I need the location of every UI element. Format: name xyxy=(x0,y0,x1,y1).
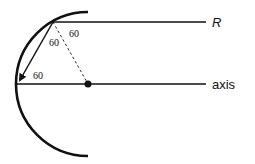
axis-label: axis xyxy=(212,77,236,92)
mirror-diagram: R axis 60 60 60 xyxy=(0,0,255,164)
ray-label: R xyxy=(212,15,221,30)
center-of-curvature-dot xyxy=(85,81,92,88)
angle-label-top: 60 xyxy=(69,28,79,39)
angle-label-bottom: 60 xyxy=(33,70,43,81)
angle-label-middle: 60 xyxy=(49,37,59,48)
